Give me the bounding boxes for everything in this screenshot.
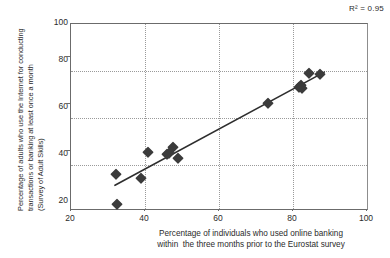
gridline-x-80 (293, 24, 294, 209)
data-point (110, 169, 121, 180)
y-tick-label-100: 100 (42, 17, 68, 27)
x-axis-title: Percentage of individuals who used onlin… (120, 228, 382, 250)
y-axis-title-line-1: Percentage of adults who use the Interne… (16, 29, 25, 212)
y-axis-title-line-2: transactions or banking at least once a … (26, 64, 35, 211)
x-axis-title-line-1: Percentage of individuals who used onlin… (120, 228, 382, 239)
y-axis-title-line-3: (Survey of Adult Skills) (36, 138, 45, 211)
x-axis-title-line-2: within the three months prior to the Eur… (120, 239, 382, 250)
x-tick-label-20: 20 (57, 213, 83, 223)
data-point (262, 98, 273, 109)
x-tick-label-60: 60 (205, 213, 231, 223)
scatter-chart-figure: R² = 0.95 Percentage of adults who use t… (0, 0, 390, 258)
x-tick-label-40: 40 (131, 213, 157, 223)
r-squared-annotation: R² = 0.95 (349, 4, 384, 13)
y-tick-label-20: 20 (46, 195, 68, 205)
x-tick-label-100: 100 (353, 213, 379, 223)
gridline-x-60 (219, 24, 220, 209)
gridline-x-40 (145, 24, 146, 209)
data-point (111, 199, 122, 210)
y-axis-title: Percentage of adults who use the Interne… (6, 12, 40, 212)
data-point (303, 67, 314, 78)
data-point (173, 153, 184, 164)
x-tick-label-80: 80 (279, 213, 305, 223)
plot-area (70, 23, 368, 210)
